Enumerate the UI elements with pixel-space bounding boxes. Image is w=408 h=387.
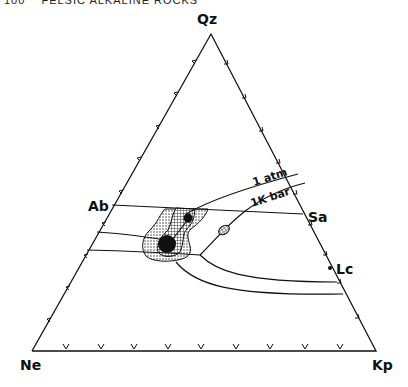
phase-boundaries [87,174,343,294]
ternary-diagram: 1 atm 1K bar [0,0,408,387]
label-ab: Ab [88,199,109,213]
apex-label-kp: Kp [372,358,393,372]
apex-label-qz: Qz [197,12,217,26]
lc-point [328,266,332,270]
ab-sa-line [112,205,303,214]
triangle-frame [32,34,376,351]
bottom-edge-ticks [63,344,343,349]
small-dot [184,214,193,223]
label-sa: Sa [308,210,328,224]
lower-curve-1 [200,255,337,282]
apex-label-ne: Ne [20,358,41,372]
label-lc: Lc [336,262,353,276]
